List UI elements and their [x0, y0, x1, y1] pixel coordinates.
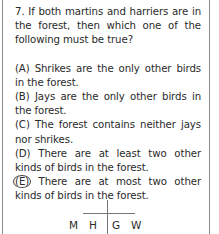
diagram-label-w: W	[131, 219, 141, 231]
document-page: 7. If both martins and harriers are in t…	[2, 0, 210, 234]
option-e-text: There are at most two other kinds of bir…	[15, 176, 201, 201]
option-a: (A) Shrikes are the only other birds in …	[15, 62, 201, 90]
diagram-horizontal-line	[83, 213, 135, 214]
diagram-label-g: G	[112, 219, 120, 231]
grouping-diagram: M H G W	[69, 200, 149, 234]
diagram-vertical-line	[107, 200, 108, 234]
question-block: 7. If both martins and harriers are in t…	[15, 5, 201, 204]
option-d: (D) There are at least two other kinds o…	[15, 147, 201, 175]
diagram-label-h: H	[89, 219, 97, 231]
option-b: (B) Jays are the only other birds in the…	[15, 90, 201, 118]
circled-answer-mark: (E)	[13, 175, 31, 188]
diagram-label-m: M	[69, 219, 78, 231]
question-text: 7. If both martins and harriers are in t…	[15, 5, 201, 48]
option-c: (C) The forest contains neither jays nor…	[15, 118, 201, 146]
